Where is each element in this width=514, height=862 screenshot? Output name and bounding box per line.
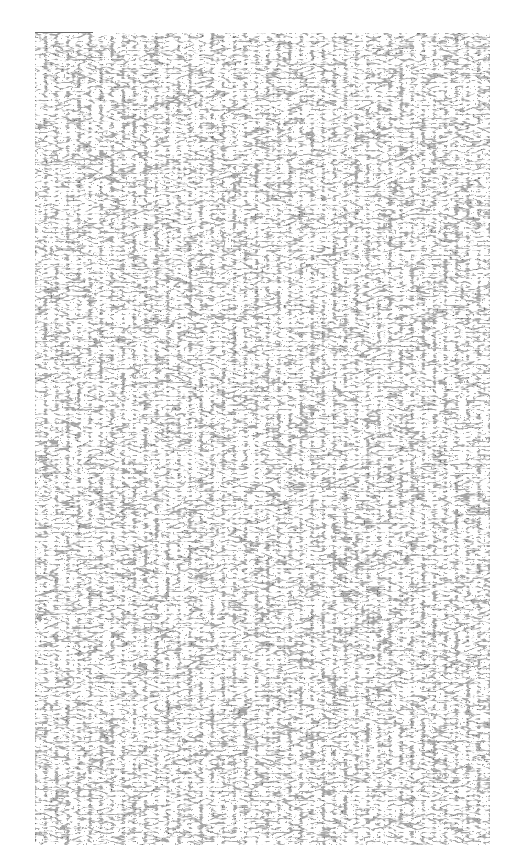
image-canvas [0,0,514,862]
noise-texture [35,33,490,845]
noise-texture-panel [35,33,490,845]
